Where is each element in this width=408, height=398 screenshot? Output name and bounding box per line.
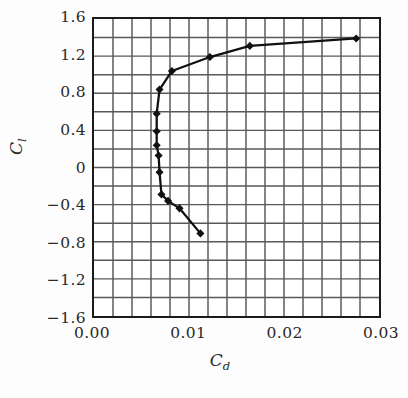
y-axis-tick-label: 0 [76,159,86,177]
data-point-marker [153,110,161,118]
x-axis-label-subscript: d [223,359,230,373]
x-axis-tick-label: 0.00 [74,324,110,342]
data-point-marker [156,168,164,176]
x-axis-tick-label: 0.03 [363,324,399,342]
x-axis-label: Cd [0,350,408,373]
x-axis-label-base: C [210,350,223,370]
data-point-marker [206,53,214,61]
data-point-marker [155,151,163,159]
y-axis-tick-label: −1.2 [47,271,86,289]
data-point-marker [246,42,254,50]
x-axis-tick-label: 0.02 [267,324,303,342]
series-line [157,38,357,233]
x-axis-tick-label: 0.01 [170,324,206,342]
y-axis-tick-label: 0.4 [60,121,86,139]
x-axis-tick-labels: 0.000.010.020.03 [0,324,408,350]
y-axis-tick-label: −0.4 [47,196,86,214]
chart-figure: Cl 1.61.20.80.40−0.4−0.8−1.2−1.6 0.000.0… [0,0,408,398]
plot-area [92,17,381,318]
y-axis-tick-label: 1.6 [60,8,86,26]
data-point-marker [153,127,161,135]
data-series-layer [94,19,379,316]
y-axis-tick-label: 0.8 [60,83,86,101]
data-point-marker [153,141,161,149]
y-axis-tick-label: 1.2 [60,46,86,64]
data-point-marker [352,34,360,42]
y-axis-tick-label: −0.8 [47,234,86,252]
